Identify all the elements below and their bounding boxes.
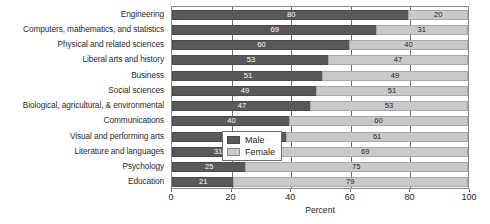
- bar-segment-female: 49: [322, 71, 468, 81]
- category-label: Social sciences: [0, 85, 164, 95]
- bar-row: 5347: [172, 55, 468, 65]
- bar-row: 6040: [172, 40, 468, 50]
- bar-value-label: 25: [205, 163, 213, 171]
- category-label: Liberal arts and history: [0, 54, 164, 64]
- x-tick-label: 20: [226, 192, 236, 203]
- legend-swatch-icon: [227, 136, 240, 144]
- bar-segment-female: 75: [245, 162, 469, 172]
- bar-value-label: 31: [418, 26, 426, 34]
- bar-value-label: 47: [238, 102, 246, 110]
- bar-segment-male: 25: [172, 162, 247, 172]
- plot-area: 8020693160405347514949514753406039613169…: [171, 6, 469, 189]
- bar-value-label: 49: [241, 87, 249, 95]
- bar-value-label: 60: [257, 41, 265, 49]
- category-label: Communications: [0, 115, 164, 125]
- x-tick-label: 60: [345, 192, 355, 203]
- legend-item: Female: [227, 147, 275, 157]
- bar-segment-male: 80: [172, 10, 410, 20]
- category-axis: EngineeringComputers, mathematics, and s…: [0, 6, 168, 189]
- legend-label: Male: [245, 135, 265, 145]
- bar-row: 5149: [172, 71, 468, 81]
- bar-row: 3169: [172, 147, 468, 157]
- bar-segment-female: 40: [349, 40, 468, 50]
- bar-segment-male: 21: [172, 177, 235, 187]
- x-tick-label: 0: [168, 192, 173, 203]
- bar-segment-male: 60: [172, 40, 351, 50]
- bar-segment-female: 20: [408, 10, 468, 20]
- bar-row: 6931: [172, 25, 468, 35]
- bar-segment-male: 40: [172, 116, 291, 126]
- bar-value-label: 51: [244, 72, 252, 80]
- bar-segment-female: 79: [233, 177, 468, 187]
- bar-value-label: 80: [287, 11, 295, 19]
- chart-legend: MaleFemale: [222, 131, 282, 161]
- bar-row: 4753: [172, 101, 468, 111]
- bar-segment-female: 47: [328, 55, 468, 65]
- bar-row: 2575: [172, 162, 468, 172]
- x-tick-label: 100: [461, 192, 476, 203]
- category-label: Psychology: [0, 161, 164, 171]
- x-axis: 020406080100: [171, 189, 469, 203]
- category-label: Computers, mathematics, and statistics: [0, 24, 164, 34]
- legend-label: Female: [245, 147, 275, 157]
- bar-segment-male: 49: [172, 86, 318, 96]
- category-label: Visual and performing arts: [0, 131, 164, 141]
- bar-value-label: 40: [227, 117, 235, 125]
- bar-segment-female: 61: [286, 132, 468, 142]
- bar-segment-female: 60: [289, 116, 468, 126]
- legend-item: Male: [227, 135, 275, 145]
- category-label: Business: [0, 70, 164, 80]
- bar-value-label: 53: [247, 56, 255, 64]
- bar-row: 4951: [172, 86, 468, 96]
- bar-value-label: 69: [271, 26, 279, 34]
- category-label: Physical and related sciences: [0, 39, 164, 49]
- bar-value-label: 60: [374, 117, 382, 125]
- category-label: Engineering: [0, 9, 164, 19]
- bar-value-label: 49: [391, 72, 399, 80]
- bar-value-label: 75: [352, 163, 360, 171]
- bar-row: 8020: [172, 10, 468, 20]
- category-label: Education: [0, 176, 164, 186]
- bar-value-label: 69: [361, 148, 369, 156]
- x-axis-title: Percent: [171, 205, 469, 215]
- bar-segment-female: 69: [262, 147, 468, 157]
- category-label: Literature and languages: [0, 146, 164, 156]
- category-label: Biological, agricultural, & environmenta…: [0, 100, 164, 110]
- bar-row: 3961: [172, 132, 468, 142]
- bar-value-label: 47: [394, 56, 402, 64]
- bar-segment-male: 69: [172, 25, 378, 35]
- bar-segment-female: 31: [376, 25, 468, 35]
- x-tick-label: 80: [404, 192, 414, 203]
- bar-row: 2179: [172, 177, 468, 187]
- bar-value-label: 40: [404, 41, 412, 49]
- bar-value-label: 20: [434, 11, 442, 19]
- bar-value-label: 51: [388, 87, 396, 95]
- bar-value-label: 61: [373, 133, 381, 141]
- bar-segment-male: 51: [172, 71, 324, 81]
- bar-row: 4060: [172, 116, 468, 126]
- x-tick-label: 40: [285, 192, 295, 203]
- bar-segment-male: 53: [172, 55, 330, 65]
- bar-value-label: 53: [385, 102, 393, 110]
- bar-segment-female: 53: [310, 101, 468, 111]
- legend-swatch-icon: [227, 148, 240, 156]
- bar-value-label: 79: [346, 178, 354, 186]
- bar-segment-female: 51: [316, 86, 468, 96]
- stacked-bar-chart: EngineeringComputers, mathematics, and s…: [0, 0, 490, 224]
- bar-segment-male: 47: [172, 101, 312, 111]
- bar-value-label: 21: [199, 178, 207, 186]
